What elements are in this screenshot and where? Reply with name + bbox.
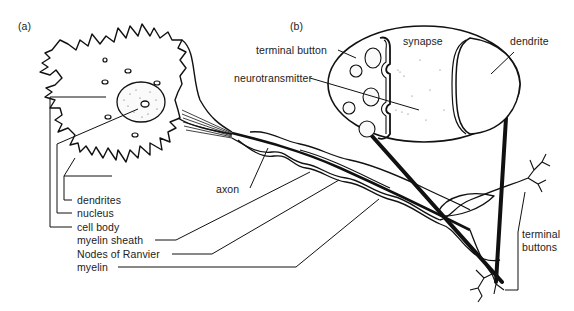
label-cell-body: cell body — [77, 221, 119, 233]
label-terminal-buttons-line2: buttons — [522, 241, 557, 253]
label-synapse: synapse — [403, 35, 443, 47]
label-neurotransmitter: neurotransmitter — [234, 72, 312, 84]
axon-fibers — [182, 110, 232, 138]
panel-label-b: (b) — [290, 20, 303, 32]
terminal-branches-top — [518, 154, 550, 192]
label-nodes-of-ranvier: Nodes of Ranvier — [77, 248, 160, 260]
label-terminal-buttons-line1: terminal — [522, 228, 560, 240]
label-terminal-button: terminal button — [256, 44, 327, 56]
label-axon: axon — [216, 183, 239, 195]
label-nucleus: nucleus — [77, 207, 114, 219]
panel-label-a: (a) — [18, 20, 31, 32]
label-dendrites: dendrites — [77, 194, 121, 206]
nucleus-shape — [117, 82, 165, 122]
label-myelin: myelin — [77, 261, 108, 273]
label-myelin-sheath: myelin sheath — [77, 234, 143, 246]
label-dendrite: dendrite — [510, 35, 549, 47]
terminal-branches-bottom — [470, 270, 504, 302]
